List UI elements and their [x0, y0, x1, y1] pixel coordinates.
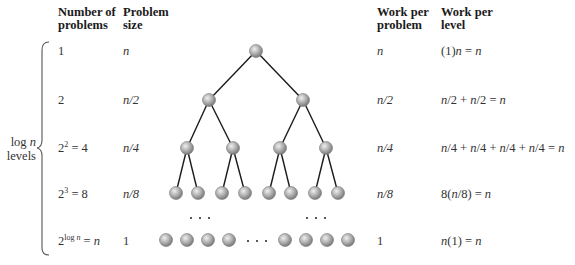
row-3-num: 23 = 8	[58, 187, 88, 201]
row-2-size: n/4	[123, 141, 139, 155]
row-3-wpl: 8(n/8) = n	[441, 187, 491, 201]
row-0-wpl: (1)n = n	[441, 44, 481, 58]
curly-brace-icon	[37, 42, 49, 255]
row-0-num: 1	[58, 44, 64, 58]
tree-nodes	[160, 45, 355, 247]
row-1-num: 2	[58, 93, 64, 107]
row-1-wpp: n/2	[377, 93, 393, 107]
row-4-wpl: n(1) = n	[441, 234, 481, 248]
recursion-tree-diagram	[0, 0, 575, 265]
row-4-num: 2log n = n	[58, 234, 100, 248]
row-1-wpl: n/2 + n/2 = n	[441, 93, 506, 107]
row-4-size: 1	[123, 234, 129, 248]
row-2-wpp: n/4	[377, 141, 393, 155]
row-2-num: 22 = 4	[58, 141, 88, 155]
row-0-size: n	[123, 44, 129, 58]
row-1-size: n/2	[123, 93, 139, 107]
row-3-size: n/8	[123, 187, 139, 201]
row-2-wpl: n/4 + n/4 + n/4 + n/4 = n	[441, 141, 564, 155]
tree-edges	[176, 51, 338, 193]
row-0-wpp: n	[377, 44, 383, 58]
row-3-wpp: n/8	[377, 187, 393, 201]
row-4-wpp: 1	[377, 234, 383, 248]
